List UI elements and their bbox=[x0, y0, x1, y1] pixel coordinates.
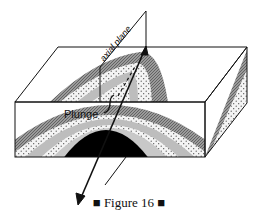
caption-text: Figure 16 bbox=[104, 195, 154, 210]
caption-left-marker: ■ bbox=[93, 195, 101, 210]
caption-right-marker: ■ bbox=[157, 195, 165, 210]
plunge-label: Plunge bbox=[64, 108, 98, 120]
figure-caption: ■ Figure 16 ■ bbox=[0, 195, 258, 211]
front-face bbox=[0, 102, 230, 160]
block-diagram: axial plane Plunge bbox=[0, 0, 258, 220]
